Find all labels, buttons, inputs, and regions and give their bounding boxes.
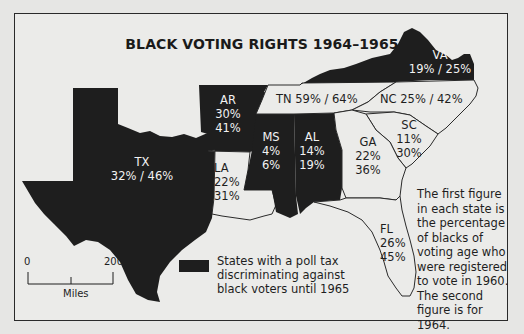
state-abbr: LA (214, 161, 244, 175)
state-abbr: MS (256, 130, 286, 144)
label-sc: SC 11% 30% (393, 118, 425, 160)
state-figure-1960: 30% (210, 107, 246, 121)
label-ar: AR 30% 41% (210, 93, 246, 135)
state-figure-1960: 14% (297, 144, 327, 158)
label-al: AL 14% 19% (297, 130, 327, 172)
state-abbr: GA (352, 135, 384, 149)
scale-max-label: 200 (104, 256, 123, 267)
state-figure-1964: 41% (210, 121, 246, 135)
state-abbr: TX (107, 155, 177, 169)
legend-text: States with a poll tax discriminating ag… (217, 254, 367, 296)
state-figure-1964: 19% (297, 158, 327, 172)
state-figures: 19% / 25% (405, 62, 475, 76)
state-abbr: VA (405, 48, 475, 62)
state-figure-1964: 30% (393, 146, 425, 160)
state-abbr: AR (210, 93, 246, 107)
label-la: LA 22% 31% (214, 161, 244, 203)
state-figure-1960: 22% (214, 175, 244, 189)
state-figure-1964: 6% (256, 158, 286, 172)
label-va: VA 19% / 25% (405, 48, 475, 76)
state-figure-1964: 45% (380, 250, 412, 264)
state-figure-1964: 31% (214, 189, 244, 203)
label-tn: TN 59% / 64% (276, 92, 366, 106)
label-nc: NC 25% / 42% (380, 92, 470, 106)
label-fl: FL 26% 45% (380, 222, 412, 264)
state-abbr: AL (297, 130, 327, 144)
state-figure-1960: 26% (380, 236, 412, 250)
state-figure-1960: 4% (256, 144, 286, 158)
label-ms: MS 4% 6% (256, 130, 286, 172)
state-abbr: SC (393, 118, 425, 132)
scale-bar (28, 272, 113, 284)
scale-unit-label: Miles (63, 288, 89, 299)
state-figure-1960: 11% (393, 132, 425, 146)
label-tx: TX 32% / 46% (107, 155, 177, 183)
label-ga: GA 22% 36% (352, 135, 384, 177)
scale-min-label: 0 (24, 256, 30, 267)
legend-swatch-poll-tax (179, 260, 209, 272)
state-figure-1964: 36% (352, 163, 384, 177)
state-abbr: FL (380, 222, 412, 236)
state-figures: 32% / 46% (107, 169, 177, 183)
state-figure-1960: 22% (352, 149, 384, 163)
explanatory-note: The first figure in each state is the pe… (417, 187, 509, 332)
